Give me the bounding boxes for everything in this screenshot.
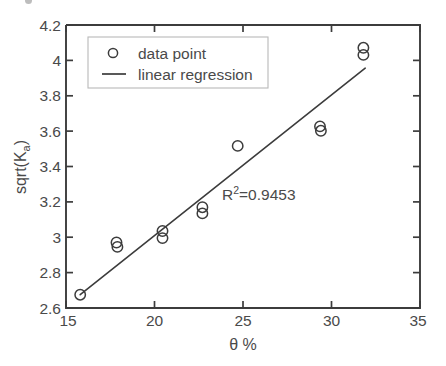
r-squared-annotation: R2=0.9453 — [222, 184, 296, 203]
y-tick-labels: 2.6 2.8 3 3.2 3.4 3.6 3.8 4 4.2 — [39, 17, 61, 317]
y-tick-label: 4.2 — [39, 17, 61, 34]
x-axis-title: θ % — [229, 336, 257, 353]
x-tick-label: 35 — [409, 312, 426, 329]
svg-text:sqrt(Ka): sqrt(Ka) — [12, 140, 32, 194]
legend-label-linear-regression: linear regression — [138, 66, 253, 83]
y-tick-label: 2.6 — [39, 300, 61, 317]
y-tick-label: 2.8 — [39, 264, 61, 281]
y-tick-label: 3.2 — [39, 193, 61, 210]
y-tick-label: 3 — [52, 229, 61, 246]
r-squared-prefix: R — [222, 186, 233, 203]
y-tick-label: 3.6 — [39, 123, 61, 140]
y-axis-title-base: sqrt(K — [12, 151, 29, 194]
linear-regression-line — [80, 68, 365, 295]
r-squared-suffix: =0.9453 — [239, 186, 295, 203]
x-tick-labels: 15 20 25 30 35 — [59, 312, 426, 329]
legend[interactable]: data point linear regression — [88, 37, 268, 88]
data-point-marker — [157, 233, 167, 243]
regression-line-series — [80, 68, 365, 295]
data-point-marker — [197, 208, 207, 218]
y-axis-title: sqrt(Ka) — [12, 140, 32, 194]
data-point-marker — [358, 50, 368, 60]
x-tick-label: 20 — [146, 312, 164, 329]
data-point-marker — [233, 141, 243, 151]
x-tick-label: 25 — [234, 312, 251, 329]
y-tick-label: 3.8 — [39, 87, 61, 104]
x-tick-label: 30 — [323, 312, 341, 329]
legend-label-data-point: data point — [138, 45, 207, 62]
y-tick-label: 4 — [52, 52, 61, 69]
figure-canvas: 2.6 2.8 3 3.2 3.4 3.6 3.8 4 4.2 15 20 25… — [0, 0, 446, 366]
scatter-plot: 2.6 2.8 3 3.2 3.4 3.6 3.8 4 4.2 15 20 25… — [0, 0, 446, 366]
y-tick-label: 3.4 — [39, 158, 61, 175]
y-axis-title-close: ) — [12, 140, 29, 145]
x-tick-label: 15 — [59, 312, 76, 329]
svg-text:R2=0.9453: R2=0.9453 — [222, 184, 296, 203]
